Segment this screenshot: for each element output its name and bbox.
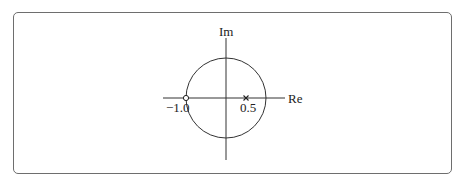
pole-zero-plot: Re Im −1.0 0.5 — [0, 0, 463, 185]
imaginary-axis-label: Im — [219, 24, 233, 39]
real-axis-label: Re — [288, 91, 303, 106]
zero-label: −1.0 — [166, 100, 190, 115]
pole-label: 0.5 — [240, 100, 256, 115]
